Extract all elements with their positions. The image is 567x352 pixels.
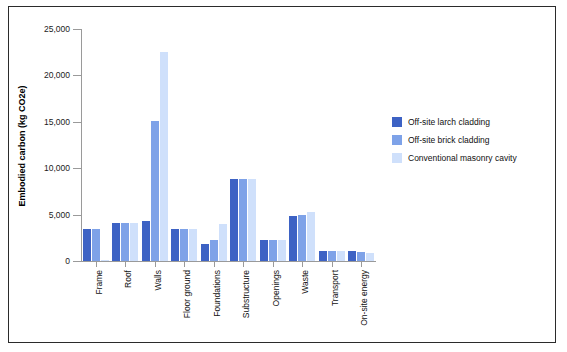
x-axis-tick-label: On-site energy	[364, 214, 374, 270]
legend-item: Off-site larch cladding	[392, 117, 547, 127]
bar-group	[317, 28, 347, 261]
x-axis-tick	[243, 262, 244, 267]
y-axis-tick-label: 10,000	[10, 163, 70, 173]
y-axis-tick	[73, 261, 81, 262]
bar	[289, 216, 297, 261]
y-axis-tick	[73, 215, 81, 216]
x-axis-tick-label-text: On-site energy	[359, 270, 369, 326]
x-axis-tick-label-text: Walls	[153, 270, 163, 290]
y-axis-tick-label: 5,000	[10, 210, 70, 220]
bar	[348, 251, 356, 261]
y-axis-title: Embodied carbon (kg CO2e)	[15, 29, 29, 262]
bar	[319, 251, 327, 261]
y-axis-tick-label: 0	[10, 256, 70, 266]
x-axis-tick	[184, 262, 185, 267]
bar	[260, 240, 268, 261]
plot-area: 05,00010,00015,00020,00025,000 FrameRoof…	[81, 29, 376, 262]
x-axis-tick	[332, 262, 333, 267]
x-axis-tick-label-text: Substructure	[241, 270, 251, 318]
x-axis-tick	[214, 262, 215, 267]
x-axis-tick-label: Transport	[335, 234, 345, 270]
x-axis-tick-label: Waste	[305, 246, 315, 270]
bar	[160, 52, 168, 261]
chart-frame: Embodied carbon (kg CO2e) 05,00010,00015…	[8, 6, 556, 343]
bar	[112, 223, 120, 261]
x-axis-tick	[125, 262, 126, 267]
legend-label: Conventional masonry cavity	[408, 153, 517, 163]
bar-group	[288, 28, 318, 261]
x-axis-tick-label: Foundations	[217, 223, 227, 270]
legend-label: Off-site brick cladding	[408, 135, 490, 145]
x-axis-tick	[302, 262, 303, 267]
x-axis-tick-label: Walls	[158, 250, 168, 270]
x-axis-tick-label: Frame	[99, 245, 109, 270]
x-axis-tick-label: Substructure	[246, 222, 256, 270]
bar	[230, 179, 238, 261]
y-axis-tick	[73, 29, 81, 30]
y-axis-tick	[73, 168, 81, 169]
x-axis-tick-label-text: Floor ground	[182, 270, 192, 318]
x-axis-tick-label-text: Transport	[330, 270, 340, 306]
x-axis-tick-label: Roof	[128, 252, 138, 270]
legend-item: Off-site brick cladding	[392, 135, 547, 145]
x-axis-tick-label-text: Waste	[300, 270, 310, 294]
x-axis-tick	[96, 262, 97, 267]
x-axis-tick-label-text: Frame	[94, 270, 104, 295]
y-axis-tick	[73, 75, 81, 76]
y-axis-tick-label: 15,000	[10, 117, 70, 127]
bar-group	[111, 28, 141, 261]
bar-group	[258, 28, 288, 261]
bar-group	[81, 28, 111, 261]
legend-swatch	[392, 117, 402, 127]
x-axis-tick	[273, 262, 274, 267]
y-axis-tick-label: 25,000	[10, 24, 70, 34]
bar	[83, 229, 91, 261]
legend-swatch	[392, 153, 402, 163]
x-axis-tick-label-text: Openings	[271, 270, 281, 306]
bar	[151, 121, 159, 261]
legend-label: Off-site larch cladding	[408, 117, 490, 127]
y-axis-tick	[73, 122, 81, 123]
bar-group	[140, 28, 170, 261]
x-axis-tick-label: Openings	[276, 234, 286, 270]
bar	[171, 229, 179, 261]
bar	[142, 221, 150, 261]
x-axis-tick	[155, 262, 156, 267]
x-axis-tick-label: Floor ground	[187, 222, 197, 270]
bar	[201, 244, 209, 261]
legend-swatch	[392, 135, 402, 145]
legend-item: Conventional masonry cavity	[392, 153, 547, 163]
x-axis-tick-label-text: Foundations	[212, 270, 222, 317]
x-axis-tick-label-text: Roof	[123, 270, 133, 288]
y-axis-tick-label: 20,000	[10, 70, 70, 80]
chart-legend: Off-site larch claddingOff-site brick cl…	[392, 117, 547, 171]
x-axis-tick	[361, 262, 362, 267]
y-axis-title-text: Embodied carbon (kg CO2e)	[17, 85, 27, 206]
